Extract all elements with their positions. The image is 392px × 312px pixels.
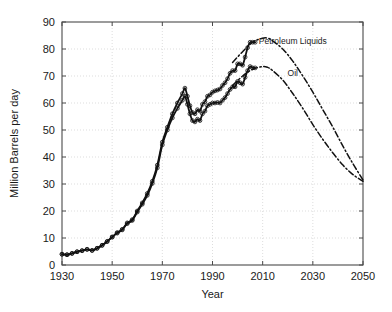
x-tick-label: 2010: [250, 270, 274, 282]
series-line-petroleum-liquids: [62, 42, 255, 255]
y-tick-label: 10: [43, 232, 55, 244]
y-tick-label: 30: [43, 178, 55, 190]
x-tick-label: 2030: [301, 270, 325, 282]
series-annotation-oil: Oil: [288, 68, 299, 78]
series-annotation-petroleum-liquids: Petroleum Liquids: [259, 36, 327, 46]
series-line-oil-projection: [233, 66, 363, 181]
y-tick-label: 70: [43, 70, 55, 82]
y-tick-label: 40: [43, 151, 55, 163]
peak-oil-projection-chart: 0102030405060708090193019501970199020102…: [0, 0, 392, 312]
x-tick-label: 1930: [50, 270, 74, 282]
y-tick-label: 50: [43, 124, 55, 136]
x-tick-label: 1990: [200, 270, 224, 282]
y-tick-label: 60: [43, 97, 55, 109]
y-axis-title: Million Barrels per day: [8, 89, 20, 198]
series-line-petroleum-liquids-projection: [233, 38, 363, 180]
x-tick-label: 1970: [150, 270, 174, 282]
x-tick-label: 2050: [351, 270, 375, 282]
y-tick-label: 90: [43, 16, 55, 28]
y-tick-label: 20: [43, 205, 55, 217]
x-tick-label: 1950: [100, 270, 124, 282]
chart-canvas: 0102030405060708090193019501970199020102…: [0, 0, 392, 312]
y-tick-label: 80: [43, 43, 55, 55]
x-axis-title: Year: [201, 288, 224, 300]
